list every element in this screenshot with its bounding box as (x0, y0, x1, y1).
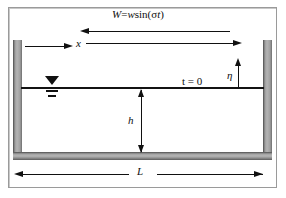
water-level-triangle-icon (45, 76, 59, 85)
depth-dimension-arrow (141, 90, 142, 152)
time-label: t = 0 (182, 76, 202, 87)
wind-arrow-left (88, 31, 230, 32)
figure-container: W=wsin(σt) x t = 0 η h L (0, 0, 286, 198)
tank-right-wall (263, 40, 272, 160)
depth-arrow-head-up-icon (138, 89, 144, 97)
x-axis-arrow (25, 46, 65, 47)
surface-elevation-label: η (227, 70, 232, 81)
wind-symbol-W: W (112, 8, 121, 20)
free-surface-symbol (42, 76, 62, 98)
depth-label: h (128, 115, 134, 126)
eta-arrow (238, 65, 239, 89)
eta-arrow-head-icon (235, 58, 241, 66)
tank-bottom-wall (13, 152, 272, 160)
water-level-bar-upper (46, 90, 58, 92)
length-arrow-head-left-icon (14, 171, 23, 177)
wind-forcing-label: W=wsin(σt) (112, 9, 164, 20)
tank-left-wall (13, 40, 22, 160)
water-level-bar-lower (48, 95, 56, 97)
x-axis-label: x (76, 38, 81, 49)
wind-sine-function: sin( (135, 8, 152, 20)
wind-arrow-right-head-icon (233, 40, 242, 46)
depth-arrow-head-down-icon (138, 145, 144, 153)
x-axis-arrow-head-icon (64, 43, 73, 49)
wind-amplitude-w: w (127, 8, 134, 20)
length-label: L (133, 166, 147, 177)
wind-arrow-left-head-icon (80, 28, 89, 34)
wind-arrow-right (86, 43, 234, 44)
length-arrow-head-right-icon (254, 171, 263, 177)
wind-close-paren: ) (160, 8, 164, 20)
